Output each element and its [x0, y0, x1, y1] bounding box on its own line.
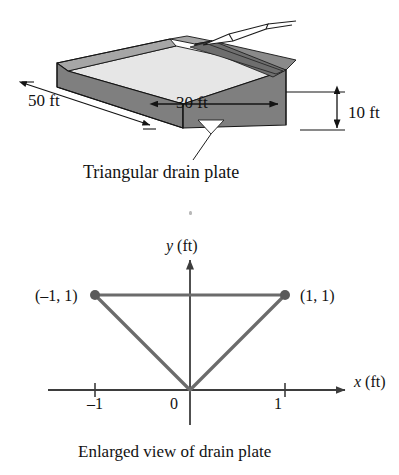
figure-root: 50 ft 30 ft 10 ft Triangular drain plate… — [0, 0, 399, 475]
vertex-dot-left — [90, 290, 100, 300]
label-length-50ft: 50 ft — [28, 92, 60, 109]
label-height-10ft: 10 ft — [348, 104, 380, 121]
label-x-axis: x (ft) — [354, 374, 386, 390]
label-width-30ft: 30 ft — [176, 94, 208, 111]
label-x-tick-one: 1 — [274, 396, 282, 412]
label-x-tick-minus-one: –1 — [87, 396, 103, 412]
label-vertex-right: (1, 1) — [300, 288, 335, 304]
label-triangular-drain-plate: Triangular drain plate — [83, 163, 239, 181]
drain-plate-plot — [0, 0, 399, 475]
vertex-dot-right — [280, 290, 290, 300]
y-axis-unit: (ft) — [173, 237, 197, 254]
label-y-axis: y (ft) — [166, 238, 198, 254]
scan-artifact-speck — [189, 211, 192, 215]
figure-caption: Enlarged view of drain plate — [78, 443, 271, 460]
x-axis-unit: (ft) — [361, 373, 385, 390]
label-x-tick-zero: 0 — [170, 396, 178, 412]
label-vertex-left: (–1, 1) — [35, 288, 78, 304]
